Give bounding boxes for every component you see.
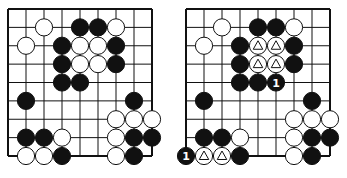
move-number-label: 1 bbox=[182, 150, 190, 163]
black-stone bbox=[231, 147, 248, 164]
white-stone bbox=[285, 147, 302, 164]
black-stone bbox=[71, 74, 88, 91]
black-stone bbox=[35, 129, 52, 146]
black-stone bbox=[143, 129, 160, 146]
white-stone bbox=[195, 147, 212, 164]
move-number-label: 1 bbox=[272, 77, 280, 90]
black-stone bbox=[195, 92, 212, 109]
black-stone bbox=[17, 92, 34, 109]
black-stone bbox=[303, 147, 320, 164]
black-stone bbox=[267, 19, 284, 36]
white-stone bbox=[267, 37, 284, 54]
black-stone bbox=[285, 56, 302, 73]
black-stone bbox=[107, 37, 124, 54]
black-stone: 1 bbox=[177, 147, 194, 164]
white-stone bbox=[249, 37, 266, 54]
black-stone bbox=[285, 37, 302, 54]
white-stone bbox=[35, 147, 52, 164]
white-stone bbox=[107, 129, 124, 146]
white-stone bbox=[285, 111, 302, 128]
white-stone bbox=[89, 56, 106, 73]
black-stone bbox=[303, 129, 320, 146]
white-stone bbox=[125, 111, 142, 128]
white-stone bbox=[17, 147, 34, 164]
white-stone bbox=[107, 111, 124, 128]
go-diagrams: 11 bbox=[0, 0, 347, 178]
white-stone bbox=[285, 19, 302, 36]
white-stone bbox=[213, 19, 230, 36]
black-stone bbox=[321, 129, 338, 146]
black-stone bbox=[71, 19, 88, 36]
white-stone bbox=[249, 56, 266, 73]
black-stone bbox=[195, 129, 212, 146]
black-stone bbox=[231, 37, 248, 54]
black-stone bbox=[125, 92, 142, 109]
black-stone bbox=[303, 92, 320, 109]
white-stone bbox=[71, 37, 88, 54]
white-stone bbox=[195, 37, 212, 54]
white-stone bbox=[107, 147, 124, 164]
black-stone bbox=[231, 74, 248, 91]
white-stone bbox=[303, 111, 320, 128]
go-board-left bbox=[8, 9, 161, 165]
black-stone bbox=[213, 129, 230, 146]
black-stone bbox=[249, 19, 266, 36]
white-stone bbox=[53, 129, 70, 146]
black-stone bbox=[231, 56, 248, 73]
black-stone bbox=[125, 129, 142, 146]
white-stone bbox=[267, 56, 284, 73]
white-stone bbox=[107, 19, 124, 36]
white-stone bbox=[17, 37, 34, 54]
black-stone bbox=[125, 147, 142, 164]
black-stone bbox=[53, 74, 70, 91]
white-stone bbox=[213, 147, 230, 164]
white-stone bbox=[35, 19, 52, 36]
black-stone: 1 bbox=[267, 74, 284, 91]
black-stone bbox=[107, 56, 124, 73]
black-stone bbox=[249, 74, 266, 91]
white-stone bbox=[71, 56, 88, 73]
go-board-right: 11 bbox=[177, 9, 338, 165]
white-stone bbox=[143, 111, 160, 128]
black-stone bbox=[53, 147, 70, 164]
white-stone bbox=[231, 129, 248, 146]
white-stone bbox=[321, 111, 338, 128]
white-stone bbox=[89, 37, 106, 54]
black-stone bbox=[17, 129, 34, 146]
black-stone bbox=[89, 19, 106, 36]
black-stone bbox=[53, 37, 70, 54]
white-stone bbox=[285, 129, 302, 146]
black-stone bbox=[53, 56, 70, 73]
